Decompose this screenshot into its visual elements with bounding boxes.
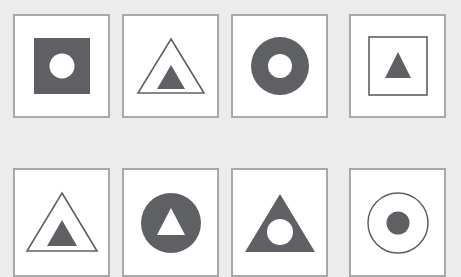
shape-filled-square-circle-hole [25,29,99,103]
shape-outline-triangle-filled-triangle [133,31,209,101]
shape-outline-square-filled-triangle [366,34,430,98]
grid-cell-1[interactable] [13,14,110,118]
grid-cell-6[interactable] [122,168,219,277]
shape-filled-circle-circle-hole [243,29,317,103]
shape-grid [0,0,461,277]
grid-cell-7[interactable] [231,168,328,277]
grid-cell-5[interactable] [13,168,110,277]
shape-filled-circle-triangle-hole [134,186,208,260]
shape-outline-circle-filled-circle [362,187,434,259]
shape-filled-triangle-circle-hole [241,187,319,259]
grid-cell-2[interactable] [122,14,219,118]
shape-outline-triangle-filled-triangle [23,187,101,259]
grid-cell-3[interactable] [231,14,328,118]
grid-cell-8[interactable] [349,168,446,277]
grid-cell-4[interactable] [349,14,446,118]
shape-grid-canvas [0,0,461,277]
